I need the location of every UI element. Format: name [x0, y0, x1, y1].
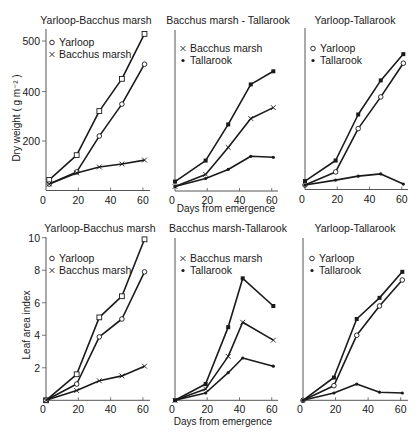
dotsquare-marker-icon — [271, 304, 275, 308]
x-tick-label: 40 — [234, 194, 246, 206]
circle-marker-icon — [120, 102, 125, 107]
dotsquare-marker-icon — [226, 325, 230, 329]
dot-marker-icon — [355, 382, 358, 385]
circle-marker-icon — [97, 134, 102, 139]
series-line — [175, 278, 273, 400]
legend-item: Tallarook — [310, 264, 361, 276]
y-tick-label: 2 — [34, 362, 40, 374]
dotsquare-marker-icon — [378, 296, 382, 300]
legend-label: Tallarook — [190, 54, 233, 66]
x-tick-label: 60 — [137, 194, 149, 206]
dotsquare-marker-icon — [379, 78, 383, 82]
legend-item: Yarloop — [50, 36, 95, 48]
y-tick-label: 400 — [22, 86, 40, 98]
square-marker-icon — [97, 315, 102, 320]
x-tick-label: 40 — [105, 403, 117, 415]
x-tick-label: 60 — [137, 403, 149, 415]
dot-marker-icon — [272, 365, 275, 368]
series-line — [305, 54, 403, 181]
circle-marker-icon — [400, 278, 405, 283]
series-line — [303, 280, 402, 400]
x-tick-label: 60 — [266, 403, 278, 415]
dot-marker-icon — [310, 269, 313, 272]
panel-title: Yarloop-Bacchus marsh — [40, 14, 151, 26]
dotsquare-marker-icon — [355, 317, 359, 321]
legend-label: Bacchus marsh — [190, 42, 263, 54]
circle-marker-icon — [142, 270, 147, 275]
x-tick-label: 0 — [297, 403, 303, 415]
circle-marker-icon — [332, 383, 337, 388]
square-marker-icon — [120, 76, 125, 81]
x-tick-label: 20 — [72, 194, 84, 206]
x-tick-label: 20 — [331, 193, 343, 205]
panel-title: Bacchus marsh - Tallarook — [166, 14, 290, 26]
panel-title: Bacchus marsh-Tallarook — [169, 222, 288, 234]
dotsquare-marker-icon — [271, 69, 275, 73]
legend-label: Tallarook — [319, 264, 362, 276]
series-line — [303, 272, 402, 401]
cross-marker-icon — [181, 256, 186, 261]
circle-marker-icon — [311, 46, 316, 51]
cross-marker-icon — [271, 338, 276, 343]
circle-marker-icon — [333, 170, 338, 175]
dotsquare-marker-icon — [356, 113, 360, 117]
x-tick-label: 60 — [395, 403, 407, 415]
legend-label: Tallarook — [190, 264, 233, 276]
circle-marker-icon — [401, 61, 406, 66]
legend-item: Bacchus marsh — [50, 264, 132, 276]
dotsquare-marker-icon — [204, 382, 208, 386]
series-line — [46, 272, 145, 401]
cross-marker-icon — [226, 145, 231, 150]
circle-marker-icon — [356, 126, 361, 131]
y-tick-label: 8 — [34, 264, 40, 276]
dot-marker-icon — [173, 185, 176, 188]
dot-marker-icon — [272, 156, 275, 159]
y-axis-label: Dry weight ( g m⁻² ) — [11, 74, 22, 161]
panel-title: Yarloop-Tallarook — [315, 222, 397, 234]
x-tick-label: 40 — [364, 193, 376, 205]
circle-marker-icon — [142, 62, 147, 67]
legend-item: Tallarook — [181, 264, 232, 276]
dot-marker-icon — [334, 178, 337, 181]
dot-marker-icon — [181, 59, 184, 62]
dot-marker-icon — [249, 155, 252, 158]
legend-item: Yarloop — [50, 252, 95, 264]
legend-item: Yarloop — [310, 252, 355, 264]
dotsquare-marker-icon — [400, 270, 404, 274]
dot-marker-icon — [379, 172, 382, 175]
x-tick-label: 20 — [330, 403, 342, 415]
square-marker-icon — [74, 153, 79, 158]
legend-label: Yarloop — [320, 42, 356, 54]
y-tick-label: 4 — [34, 329, 40, 341]
panel-top-left-dry-weight: Yarloop-Bacchus marsh Dry weight ( g m⁻²… — [11, 14, 152, 206]
dot-marker-icon — [357, 175, 360, 178]
legend-item: Bacchus marsh — [181, 252, 263, 264]
panel-title: Yarloop-Bacchus marsh — [44, 222, 155, 234]
series-line — [303, 384, 402, 400]
circle-marker-icon — [120, 317, 125, 322]
dotsquare-marker-icon — [173, 180, 177, 184]
square-marker-icon — [142, 237, 147, 242]
y-tick-label: 500 — [22, 35, 40, 47]
legend-label: Bacchus marsh — [190, 252, 263, 264]
x-tick-label: 20 — [72, 403, 84, 415]
dotsquare-marker-icon — [249, 82, 253, 86]
legend-label: Bacchus marsh — [59, 48, 132, 60]
cross-marker-icon — [50, 268, 55, 273]
series-line — [175, 322, 273, 400]
y-axis-label: Leaf area index — [21, 291, 32, 360]
square-marker-icon — [97, 109, 102, 114]
y-tick-label: 6 — [34, 297, 40, 309]
dotsquare-marker-icon — [334, 159, 338, 163]
panel-bottom-middle-leaf-area: Bacchus marsh-Tallarook Days from emerge… — [169, 222, 288, 427]
panel-bottom-left-leaf-area: Yarloop-Bacchus marsh Leaf area index 02… — [21, 222, 156, 415]
legend-label: Bacchus marsh — [59, 264, 132, 276]
series-line — [175, 71, 273, 181]
dot-marker-icon — [204, 391, 207, 394]
dot-marker-icon — [378, 391, 381, 394]
legend-item: Yarloop — [311, 42, 356, 54]
dot-marker-icon — [204, 177, 207, 180]
dot-marker-icon — [303, 183, 306, 186]
cross-marker-icon — [181, 46, 186, 51]
y-tick-label: 200 — [22, 135, 40, 147]
